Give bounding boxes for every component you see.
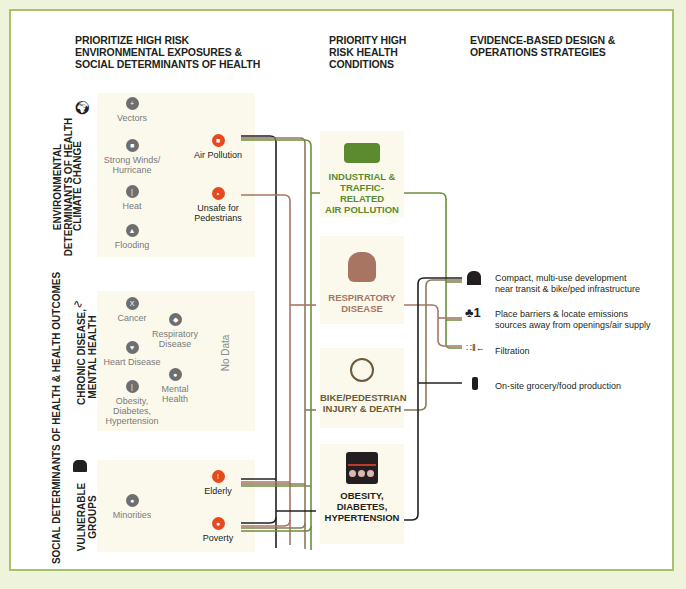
condition-respiratory: RESPIRATORY DISEASE	[320, 236, 404, 324]
condition-bike-pedestrian: BIKE/PEDESTRIAN INJURY & DEATH	[320, 348, 404, 428]
tree-barrier-icon: ♣1	[465, 306, 481, 320]
scale-icon	[346, 452, 378, 484]
strategy-label: Filtration	[495, 346, 530, 357]
condition-label: BIKE/PEDESTRIAN	[320, 392, 404, 403]
condition-air-pollution: INDUSTRIAL & TRAFFIC-RELATED AIR POLLUTI…	[320, 131, 404, 217]
condition-label: RESPIRATORY	[320, 292, 404, 303]
factory-truck-icon	[344, 143, 380, 163]
strategy-label: near transit & bike/ped infrastructure	[495, 284, 640, 295]
strategy-label: On-site grocery/food production	[495, 381, 621, 392]
condition-label: DISEASE	[320, 303, 404, 314]
strategy-compact-development: Compact, multi-use development near tran…	[495, 273, 640, 294]
bike-crash-icon	[350, 358, 374, 382]
condition-label: INDUSTRIAL &	[320, 171, 404, 182]
strategy-barriers: Place barriers & locate emissions source…	[495, 309, 651, 330]
condition-label: TRAFFIC-RELATED	[320, 182, 404, 204]
condition-label: DIABETES,	[320, 501, 404, 512]
strategy-filtration: Filtration	[495, 346, 530, 357]
strategy-grocery: On-site grocery/food production	[495, 381, 621, 392]
plant-icon	[472, 377, 478, 390]
strategy-label: Compact, multi-use development	[495, 273, 640, 284]
buildings-icon	[467, 271, 481, 285]
lungs-icon	[348, 252, 376, 282]
condition-label: HYPERTENSION	[320, 512, 404, 523]
condition-label: AIR POLLUTION	[320, 204, 404, 215]
filter-icon: ∷‖←	[466, 343, 485, 353]
strategy-label: Place barriers & locate emissions	[495, 309, 651, 320]
condition-obesity: OBESITY, DIABETES, HYPERTENSION	[320, 444, 404, 544]
condition-label: OBESITY,	[320, 490, 404, 501]
condition-label: INJURY & DEATH	[320, 403, 404, 414]
strategy-label: sources away from openings/air supply	[495, 320, 651, 331]
